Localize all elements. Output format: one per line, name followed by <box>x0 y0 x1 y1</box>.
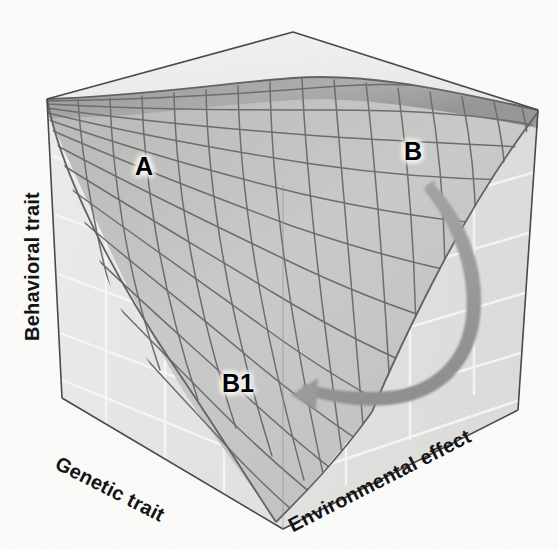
axis-label-behavioral-trait: Behavioral trait <box>21 192 44 341</box>
point-label-b1: B1 <box>222 369 254 398</box>
point-label-b: B <box>404 137 422 166</box>
figure-3d-surface-plot: Behavioral trait Genetic trait Environme… <box>0 0 558 549</box>
point-label-a: A <box>135 152 153 181</box>
